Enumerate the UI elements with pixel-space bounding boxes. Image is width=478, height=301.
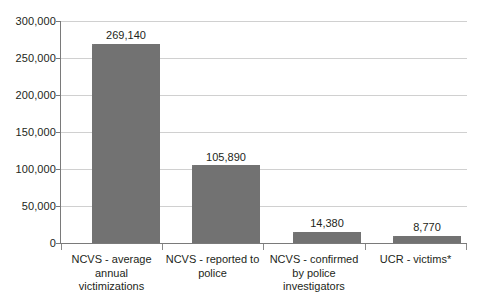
x-axis-category-label-ncvs-confirmed-by-police-investigators: NCVS - confirmed by police investigators <box>263 253 365 294</box>
x-axis-tick-mark <box>466 244 467 250</box>
y-axis-tick-label: 0 <box>2 238 56 249</box>
x-axis-tick-mark <box>263 244 264 250</box>
bar-ncvs-reported-to-police <box>192 165 260 243</box>
bar-value-label: 8,770 <box>393 222 461 233</box>
x-axis-category-label-ucr-victims: UCR - victims* <box>365 253 466 267</box>
y-axis-tick-label: 250,000 <box>2 53 56 64</box>
y-axis-tick-label: 100,000 <box>2 164 56 175</box>
y-axis-tick-label: 300,000 <box>2 16 56 27</box>
y-axis-tick-label: 50,000 <box>2 201 56 212</box>
bar-value-label: 269,140 <box>92 30 160 41</box>
y-axis-tick-label: 200,000 <box>2 90 56 101</box>
bar-ncvs-average-annual-victimizations <box>92 44 160 243</box>
bar-chart: 300,000 250,000 200,000 150,000 100,000 … <box>0 0 478 301</box>
bar-ucr-victims <box>393 236 461 243</box>
x-axis-tick-mark <box>162 244 163 250</box>
x-axis-category-line: by police <box>263 267 365 281</box>
x-axis-category-line: NCVS - average <box>61 253 162 267</box>
x-axis-tick-mark <box>365 244 366 250</box>
x-axis-category-line: NCVS - reported to <box>162 253 263 267</box>
gridline <box>61 21 467 22</box>
x-axis-category-line: UCR - victims* <box>365 253 466 267</box>
x-axis-category-line: NCVS - confirmed <box>263 253 365 267</box>
y-axis-tick-label: 150,000 <box>2 127 56 138</box>
x-axis-category-line: victimizations <box>61 280 162 294</box>
x-axis-category-label-ncvs-reported-to-police: NCVS - reported to police <box>162 253 263 280</box>
x-axis-tick-mark <box>61 244 62 250</box>
plot-area <box>61 21 467 243</box>
y-axis-labels: 300,000 250,000 200,000 150,000 100,000 … <box>0 0 56 301</box>
bar-value-label: 105,890 <box>192 152 260 163</box>
x-axis-category-label-ncvs-average-annual-victimizations: NCVS - average annual victimizations <box>61 253 162 294</box>
x-axis-category-line: investigators <box>263 280 365 294</box>
bar-value-label: 14,380 <box>293 218 361 229</box>
x-axis-category-line: annual <box>61 267 162 281</box>
x-axis-category-line: police <box>162 267 263 281</box>
y-axis-line <box>60 21 61 244</box>
bar-ncvs-confirmed-by-police-investigators <box>293 232 361 243</box>
x-axis-line <box>61 243 467 244</box>
